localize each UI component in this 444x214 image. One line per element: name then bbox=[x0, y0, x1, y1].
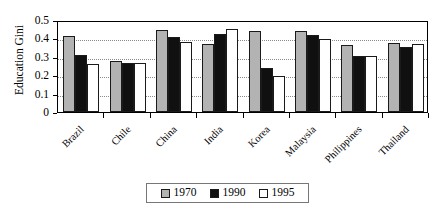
legend-swatch-1990 bbox=[210, 189, 219, 198]
bar-india-1990 bbox=[214, 34, 226, 112]
bar-group bbox=[63, 22, 99, 112]
bar-chile-1990 bbox=[122, 63, 134, 112]
y-tick-label: 0.2 bbox=[15, 70, 49, 82]
bar-brazil-1970 bbox=[63, 36, 75, 112]
bar-thailand-1970 bbox=[388, 43, 400, 112]
y-tick-label: 0 bbox=[15, 107, 49, 119]
bar-india-1995 bbox=[226, 29, 238, 112]
bar-china-1970 bbox=[156, 30, 168, 112]
x-label-india: India bbox=[178, 124, 225, 171]
x-tick-mark bbox=[335, 113, 336, 118]
legend-item-1990: 1990 bbox=[210, 187, 246, 199]
y-tick-mark bbox=[53, 39, 57, 40]
plot-area bbox=[57, 21, 428, 113]
y-tick-mark bbox=[53, 113, 57, 114]
legend-item-1995: 1995 bbox=[259, 187, 295, 199]
bar-korea-1970 bbox=[249, 31, 261, 113]
bar-brazil-1995 bbox=[87, 64, 99, 112]
bar-group bbox=[295, 22, 331, 112]
legend-label-1970: 1970 bbox=[174, 187, 197, 199]
x-tick-mark bbox=[382, 113, 383, 118]
y-tick-label: 0.3 bbox=[15, 52, 49, 64]
legend-swatch-1995 bbox=[259, 189, 268, 198]
bar-korea-1990 bbox=[261, 68, 273, 112]
y-tick-mark bbox=[53, 95, 57, 96]
x-label-brazil: Brazil bbox=[39, 124, 86, 171]
bar-group bbox=[110, 22, 146, 112]
bar-thailand-1995 bbox=[412, 44, 424, 112]
y-tick-mark bbox=[53, 58, 57, 59]
bar-chile-1995 bbox=[134, 63, 146, 112]
x-tick-mark bbox=[103, 113, 104, 118]
bar-india-1970 bbox=[202, 44, 214, 112]
bar-malaysia-1990 bbox=[307, 35, 319, 112]
x-label-china: China bbox=[131, 124, 178, 171]
bar-thailand-1990 bbox=[400, 47, 412, 112]
x-tick-mark bbox=[289, 113, 290, 118]
bar-malaysia-1970 bbox=[295, 31, 307, 113]
bar-malaysia-1995 bbox=[319, 39, 331, 112]
y-tick-label: 0.5 bbox=[15, 15, 49, 27]
bar-china-1990 bbox=[168, 37, 180, 112]
bar-china-1995 bbox=[180, 42, 192, 112]
bar-group bbox=[388, 22, 424, 112]
bar-philippines-1995 bbox=[365, 56, 377, 112]
legend-item-1970: 1970 bbox=[161, 187, 197, 199]
bar-philippines-1990 bbox=[353, 56, 365, 112]
x-label-philippines: Philippines bbox=[317, 124, 364, 171]
bar-brazil-1990 bbox=[75, 55, 87, 112]
legend-swatch-1970 bbox=[161, 189, 170, 198]
education-gini-bar-chart: Education Gini 00.10.20.30.40.5 BrazilCh… bbox=[0, 0, 444, 214]
y-tick-mark bbox=[53, 76, 57, 77]
bar-group bbox=[202, 22, 238, 112]
legend-label-1995: 1995 bbox=[272, 187, 295, 199]
x-label-malaysia: Malaysia bbox=[271, 124, 318, 171]
bar-group bbox=[341, 22, 377, 112]
bar-philippines-1970 bbox=[341, 45, 353, 112]
x-label-thailand: Thailand bbox=[363, 124, 410, 171]
bar-group bbox=[156, 22, 192, 112]
bar-chile-1970 bbox=[110, 61, 122, 112]
bar-korea-1995 bbox=[273, 76, 285, 112]
x-tick-mark bbox=[243, 113, 244, 118]
legend: 1970 1990 1995 bbox=[146, 183, 309, 203]
x-tick-mark bbox=[428, 113, 429, 118]
y-tick-label: 0.4 bbox=[15, 33, 49, 45]
bar-group bbox=[249, 22, 285, 112]
x-label-korea: Korea bbox=[224, 124, 271, 171]
y-tick-label: 0.1 bbox=[15, 89, 49, 101]
x-tick-mark bbox=[196, 113, 197, 118]
x-label-chile: Chile bbox=[85, 124, 132, 171]
x-tick-mark bbox=[150, 113, 151, 118]
y-tick-mark bbox=[53, 21, 57, 22]
legend-label-1990: 1990 bbox=[223, 187, 246, 199]
